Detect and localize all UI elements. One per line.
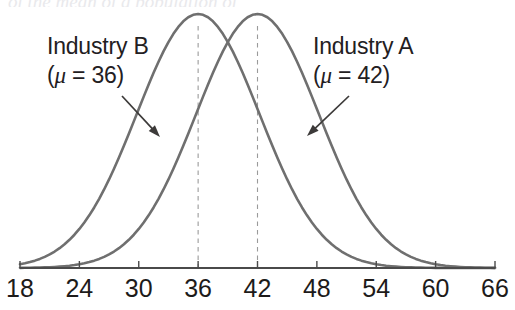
annotation-b-mean-value: = 36): [66, 62, 124, 88]
annotation-a-mean-value: = 42): [332, 62, 390, 88]
x-axis-tick-label: 30: [125, 276, 153, 301]
x-axis-tick-label: 54: [362, 276, 390, 301]
mu-symbol-icon: μ: [320, 63, 331, 88]
annotation-industry-b: Industry B (μ = 36): [47, 32, 149, 91]
normal-distribution-figure: of the mean of a population of Indu: [0, 0, 515, 310]
x-axis-tick-label: 18: [6, 276, 34, 301]
x-axis-tick-label: 24: [65, 276, 93, 301]
annotation-industry-a: Industry A (μ = 42): [313, 32, 413, 91]
x-axis-tick-label: 42: [244, 276, 272, 301]
annotation-industry-b-name: Industry B: [47, 33, 149, 59]
mu-symbol-icon: μ: [54, 63, 65, 88]
x-axis-tick-label: 36: [184, 276, 212, 301]
annotation-industry-a-mean: (μ = 42): [313, 61, 413, 90]
x-axis-tick-label: 48: [303, 276, 331, 301]
annotation-industry-a-name: Industry A: [313, 33, 413, 59]
x-axis-tick-label: 66: [481, 276, 509, 301]
reference-lines: [198, 26, 257, 267]
x-axis-tick-label: 60: [422, 276, 450, 301]
annotation-industry-b-mean: (μ = 36): [47, 61, 149, 90]
